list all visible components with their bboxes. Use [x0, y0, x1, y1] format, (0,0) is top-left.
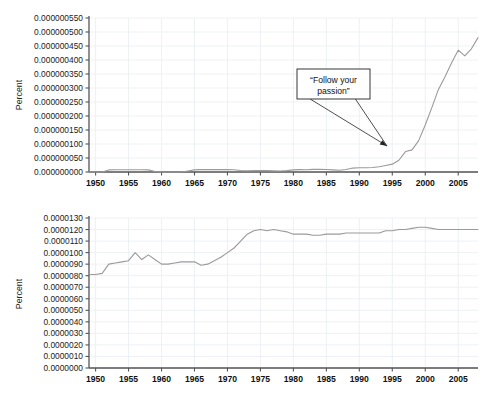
y-tick-label: 0.000000100: [34, 139, 83, 149]
x-tick-label: 1960: [152, 374, 171, 384]
x-tick-label: 1995: [383, 178, 402, 188]
x-tick-label: 1965: [185, 178, 204, 188]
y-tick-label: 0.0000070: [43, 282, 83, 292]
x-tick-label: 1990: [350, 178, 369, 188]
y-tick-label: 0.0000020: [43, 340, 83, 350]
x-tick-label: 2005: [449, 374, 468, 384]
y-tick-label: 0.0000130: [43, 213, 83, 223]
y-tick-label: 0.0000030: [43, 328, 83, 338]
y-axis-title: Percent: [14, 79, 24, 110]
annotation-top: “Follow yourpassion”: [297, 69, 387, 146]
x-tick-label: 1985: [317, 374, 336, 384]
chart-svg-bottom: 0.00000000.00000100.00000200.00000300.00…: [0, 204, 490, 408]
x-tick-label: 1975: [251, 374, 270, 384]
y-tick-label: 0.0000060: [43, 294, 83, 304]
y-tick-label: 0.000000200: [34, 111, 83, 121]
leader-line-1: [310, 99, 387, 146]
x-tick-label: 1995: [383, 374, 402, 384]
x-axis-bottom: 1950195519601965197019751980198519901995…: [86, 368, 478, 384]
chart-bottom-earn-more-money: 0.00000000.00000100.00000200.00000300.00…: [0, 204, 490, 408]
y-tick-label: 0.000000400: [34, 55, 83, 65]
y-tick-label: 0.0000100: [43, 248, 83, 258]
y-tick-label: 0.0000080: [43, 271, 83, 281]
x-tick-label: 1970: [218, 374, 237, 384]
gridlines-top: [89, 18, 478, 172]
y-axis-title: Percent: [14, 278, 24, 309]
chart-svg-top: 0.0000000000.0000000500.0000001000.00000…: [0, 0, 490, 204]
y-axis-bottom: 0.00000000.00000100.00000200.00000300.00…: [43, 213, 89, 373]
x-axis-top: 1950195519601965197019751980198519901995…: [86, 172, 478, 188]
y-tick-label: 0.0000010: [43, 351, 83, 361]
annotation-text-line1: “Follow your: [310, 75, 357, 85]
x-tick-label: 1955: [119, 178, 138, 188]
y-tick-label: 0.000000300: [34, 83, 83, 93]
x-tick-label: 2000: [416, 178, 435, 188]
data-series-line: [89, 38, 478, 172]
gridlines-bottom: [89, 218, 478, 368]
annotation-text-line2: passion”: [317, 86, 350, 96]
y-tick-label: 0.0000000: [43, 363, 83, 373]
x-tick-label: 1950: [86, 178, 105, 188]
y-tick-label: 0.000000500: [34, 27, 83, 37]
x-tick-label: 1960: [152, 178, 171, 188]
x-tick-label: 1965: [185, 374, 204, 384]
data-series-line: [89, 227, 478, 274]
x-tick-label: 2000: [416, 374, 435, 384]
y-tick-label: 0.000000250: [34, 97, 83, 107]
y-axis-top: 0.0000000000.0000000500.0000001000.00000…: [34, 13, 89, 177]
x-tick-label: 2005: [449, 178, 468, 188]
y-tick-label: 0.000000050: [34, 153, 83, 163]
y-tick-label: 0.0000040: [43, 317, 83, 327]
y-tick-label: 0.0000120: [43, 225, 83, 235]
y-tick-label: 0.0000090: [43, 259, 83, 269]
y-tick-label: 0.000000450: [34, 41, 83, 51]
y-tick-label: 0.0000050: [43, 305, 83, 315]
x-tick-label: 1975: [251, 178, 270, 188]
x-tick-label: 1980: [284, 178, 303, 188]
x-tick-label: 1990: [350, 374, 369, 384]
y-tick-label: 0.000000000: [34, 167, 83, 177]
x-tick-label: 1980: [284, 374, 303, 384]
leader-line-2: [355, 99, 387, 146]
y-tick-label: 0.000000150: [34, 125, 83, 135]
x-tick-label: 1955: [119, 374, 138, 384]
x-tick-label: 1950: [86, 374, 105, 384]
y-tick-label: 0.000000550: [34, 13, 83, 23]
figure-container: 0.0000000000.0000000500.0000001000.00000…: [0, 0, 490, 408]
x-tick-label: 1970: [218, 178, 237, 188]
chart-top-follow-your-passion: 0.0000000000.0000000500.0000001000.00000…: [0, 0, 490, 204]
y-tick-label: 0.000000350: [34, 69, 83, 79]
x-tick-label: 1985: [317, 178, 336, 188]
y-tick-label: 0.0000110: [44, 236, 83, 246]
